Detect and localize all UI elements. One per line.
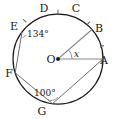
- angle-label-100: 100°: [34, 88, 56, 98]
- point-label-E: E: [10, 20, 18, 33]
- segment-chord-GA: [53, 59, 103, 104]
- circle-geometry-figure: A B C D E F G O 134° 100° x: [0, 0, 120, 119]
- center-point-dot: [56, 57, 60, 61]
- tick-arc-CB: [87, 22, 90, 25]
- point-label-D: D: [40, 2, 49, 15]
- center-label-O: O: [46, 53, 55, 66]
- point-label-F: F: [5, 67, 13, 80]
- angle-label-134: 134°: [27, 29, 49, 39]
- angle-label-x: x: [74, 49, 79, 59]
- point-label-G: G: [38, 105, 47, 118]
- point-label-B: B: [95, 22, 103, 35]
- point-label-A: A: [99, 54, 109, 67]
- tick-arc-ED: [23, 19, 26, 22]
- angle-arc-at-O: [69, 50, 72, 59]
- angle-arc-at-E: [23, 35, 27, 38]
- point-label-C: C: [72, 2, 80, 15]
